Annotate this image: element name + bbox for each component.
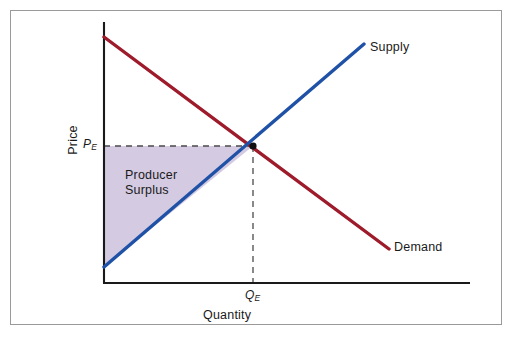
producer-surplus-label-line1: Producer <box>125 168 177 183</box>
supply-curve-label: Supply <box>370 40 409 54</box>
price-subscript: E <box>91 142 97 152</box>
price-symbol: P <box>83 137 91 151</box>
equilibrium-quantity-tick-label: QE <box>245 288 260 303</box>
producer-surplus-label-line2: Surplus <box>125 183 177 198</box>
figure-canvas: Supply Demand Quantity Price PE QE Produ… <box>0 0 512 338</box>
x-axis-label: Quantity <box>203 308 251 322</box>
equilibrium-price-tick-label: PE <box>83 137 97 152</box>
equilibrium-point-dot[interactable] <box>249 142 256 149</box>
quantity-subscript: E <box>255 293 261 303</box>
y-axis-label: Price <box>66 114 80 166</box>
quantity-symbol: Q <box>245 288 255 302</box>
demand-curve-label: Demand <box>394 240 442 254</box>
producer-surplus-label: ProducerSurplus <box>125 168 177 198</box>
